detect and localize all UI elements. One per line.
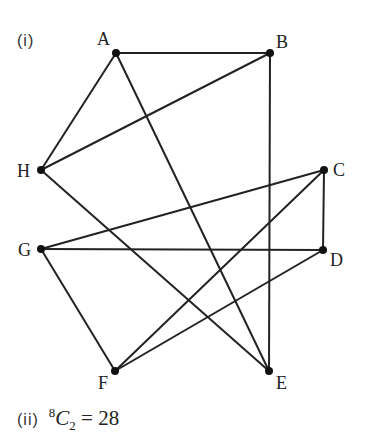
- edge-a-e: [116, 53, 269, 371]
- node-c: [320, 166, 328, 174]
- node-b: [266, 49, 274, 57]
- graph-diagram: ABCDEFGH: [0, 0, 365, 440]
- node-label-e: E: [276, 373, 287, 393]
- node-label-c: C: [333, 160, 345, 180]
- edge-a-h: [41, 53, 116, 170]
- edge-b-e: [269, 53, 270, 371]
- edge-h-e: [41, 170, 269, 371]
- combination-caption: (ii)8C2 = 28: [17, 405, 119, 434]
- edge-b-h: [41, 53, 270, 170]
- node-e: [265, 367, 273, 375]
- node-f: [111, 367, 119, 375]
- node-label-g: G: [18, 240, 31, 260]
- edge-g-d: [41, 249, 323, 250]
- node-label-f: F: [98, 373, 108, 393]
- graph-edges: [41, 53, 324, 371]
- combination-k: 2: [69, 418, 76, 433]
- equals-sign: =: [81, 406, 93, 430]
- node-d: [319, 246, 327, 254]
- node-g: [37, 245, 45, 253]
- node-label-d: D: [330, 250, 343, 270]
- edge-g-f: [41, 249, 115, 371]
- graph-labels: ABCDEFGH: [17, 29, 345, 393]
- combination-symbol: C: [55, 406, 69, 430]
- node-label-b: B: [276, 32, 288, 52]
- node-a: [112, 49, 120, 57]
- combination-result: 28: [98, 406, 119, 430]
- node-label-a: A: [97, 29, 110, 49]
- edge-c-d: [323, 170, 324, 250]
- node-h: [37, 166, 45, 174]
- part-ii-label: (ii): [17, 411, 39, 428]
- node-label-h: H: [17, 161, 30, 181]
